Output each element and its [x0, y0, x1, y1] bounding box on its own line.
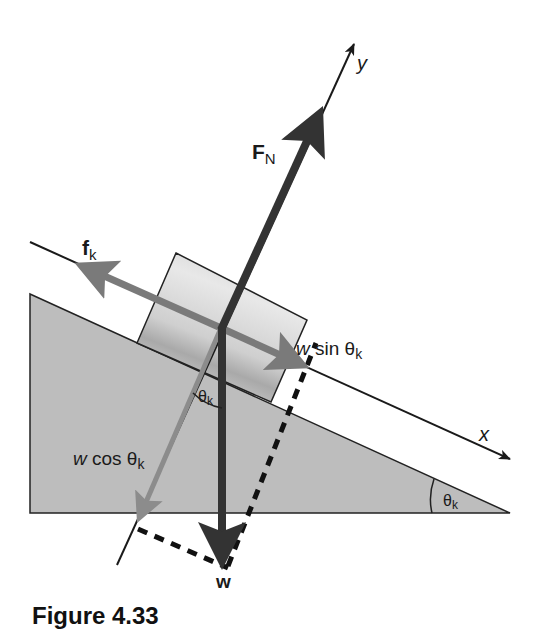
normal-force-label: FN: [252, 140, 276, 167]
dashed-line-perpendicular: [138, 529, 228, 568]
figure-caption: Figure 4.33: [32, 602, 159, 630]
weight-parallel-label: w sin θk: [296, 338, 363, 362]
x-axis-label: x: [478, 423, 490, 445]
friction-label: fk: [82, 236, 97, 263]
weight-label: w: [215, 571, 231, 592]
weight-perpendicular-label: w cos θk: [73, 448, 145, 472]
normal-force-arrow: [221, 117, 318, 330]
y-axis-label: y: [355, 52, 368, 74]
